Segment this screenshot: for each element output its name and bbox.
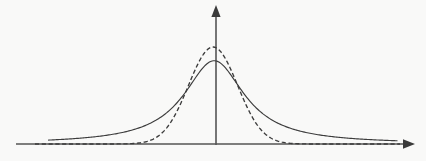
y-axis-arrowhead	[211, 5, 220, 17]
solid-distribution-curve	[49, 61, 398, 141]
distribution-curves-figure	[0, 0, 426, 161]
x-axis-arrowhead	[403, 139, 415, 149]
plot-canvas	[0, 0, 426, 161]
